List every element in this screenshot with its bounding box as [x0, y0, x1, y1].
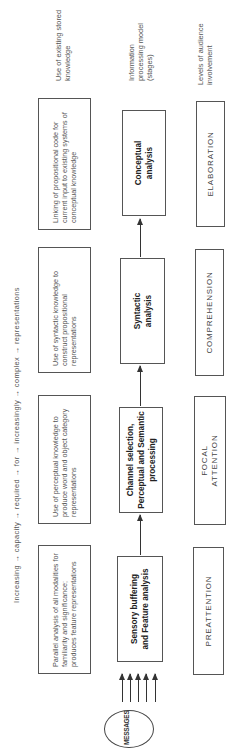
- knowledge-box-3: Use of syntactic knowledge to construct …: [38, 247, 91, 373]
- row-label-knowledge: Use of existing stored knowledge: [54, 9, 72, 81]
- stage-box-conceptual: Conceptual analysis: [122, 110, 166, 216]
- knowledge-box-1: Parallel analysis of all modalities for …: [38, 545, 91, 674]
- stage-arrow-2: [140, 366, 141, 406]
- level-box-comprehension: COMPREHENSION: [195, 249, 224, 376]
- level-box-focal-attention: FOCAL ATTENTION: [194, 396, 226, 525]
- row-label-stages: Information processing model (stages): [127, 21, 154, 81]
- stage-arrow-3: [140, 219, 141, 257]
- knowledge-box-4: Linking of propositional code for curren…: [38, 98, 91, 230]
- row-label-involvement: Levels of audience involvement: [196, 9, 214, 85]
- stage-box-channel: Channel selection, Perceptual and Semant…: [119, 407, 163, 513]
- rotated-diagram: Increasing → capacity → required → for →…: [0, 0, 235, 753]
- stage-box-syntactic: Syntactic analysis: [120, 258, 165, 364]
- knowledge-box-2: Use of perceptual knowledge to produce w…: [38, 395, 91, 524]
- messages-label: MESSAGES: [123, 711, 130, 745]
- input-arrow-1: [122, 674, 123, 702]
- stage-box-sensory: Sensory buffering and Feature analysis: [117, 556, 163, 662]
- level-box-preattention: PREATTENTION: [193, 547, 224, 675]
- level-box-elaboration: ELABORATION: [196, 101, 225, 227]
- input-arrow-3: [138, 674, 139, 702]
- capacity-axis-label: Increasing → capacity → required → for →…: [12, 287, 21, 603]
- stage-arrow-1: [140, 515, 141, 555]
- input-arrow-5: [155, 674, 156, 702]
- input-arrow-2: [130, 674, 131, 702]
- input-arrow-4: [146, 674, 147, 702]
